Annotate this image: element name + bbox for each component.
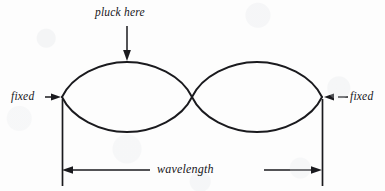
wavelength-label: wavelength [157, 163, 214, 175]
fixed-right-arrowhead [324, 93, 334, 100]
wave-upper-envelope [62, 62, 322, 97]
figure-root: pluck here fixed fixed wavelength [0, 0, 385, 191]
pluck-here-label: pluck here [95, 7, 145, 19]
fixed-left-label: fixed [11, 91, 34, 103]
fixed-left-arrowhead [51, 93, 61, 100]
dimension-arrowhead-left [62, 166, 73, 174]
wave-lower-envelope [62, 97, 322, 132]
dimension-arrowhead-right [311, 166, 322, 174]
pluck-here-arrowhead [123, 50, 131, 61]
fixed-right-label: fixed [350, 91, 373, 103]
